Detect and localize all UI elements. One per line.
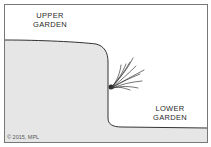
- lower-garden-label: LOWER GARDEN: [150, 104, 190, 122]
- copyright-notice: © 2015, MPL: [7, 134, 39, 141]
- lower-garden-label-line2: GARDEN: [150, 113, 190, 122]
- upper-garden-label: UPPER GARDEN: [30, 11, 70, 29]
- roots-icon: [112, 58, 144, 90]
- upper-garden-label-line1: UPPER: [30, 11, 70, 20]
- garden-diagram: UPPER GARDEN LOWER GARDEN © 2015, MPL: [0, 0, 211, 147]
- lower-garden-label-line1: LOWER: [150, 104, 190, 113]
- upper-garden-label-line2: GARDEN: [30, 20, 70, 29]
- upper-garden-soil: [5, 40, 207, 142]
